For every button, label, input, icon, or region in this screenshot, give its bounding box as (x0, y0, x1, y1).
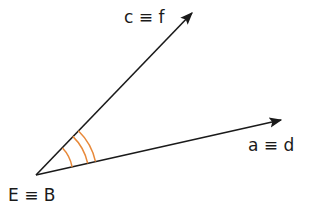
angle-arc-2 (73, 136, 88, 163)
angle-diagram: c ≡ f a ≡ d E ≡ B (0, 0, 316, 215)
label-lower-ray: a ≡ d (248, 137, 294, 154)
label-vertex: E ≡ B (8, 187, 55, 204)
label-upper-ray: c ≡ f (124, 9, 164, 26)
angle-marks (63, 131, 96, 167)
angle-arc-1 (63, 148, 73, 167)
ray-upper (36, 13, 192, 175)
angle-figure (0, 0, 316, 215)
